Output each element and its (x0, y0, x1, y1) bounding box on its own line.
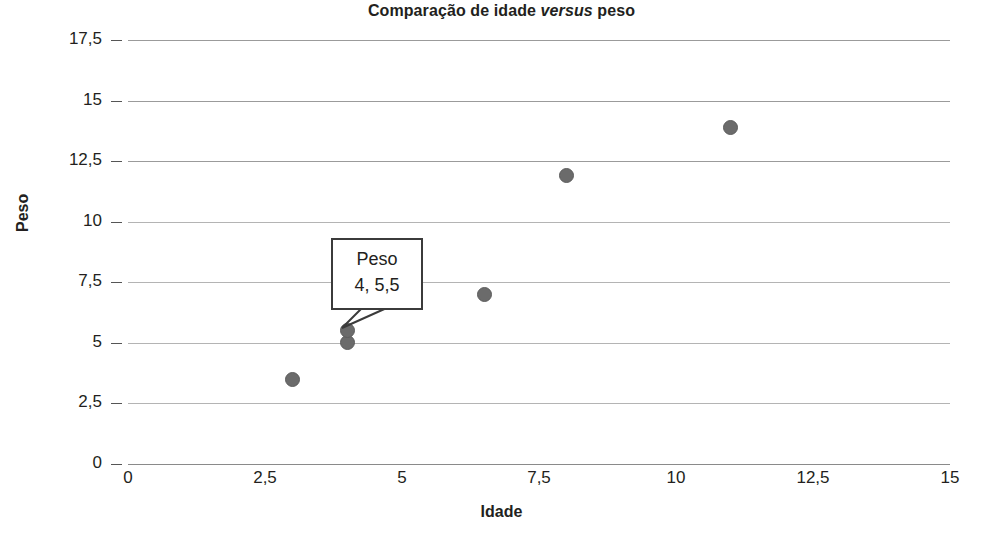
data-point-callout[interactable]: Peso 4, 5,5 (331, 238, 423, 310)
y-tick-label: 7,5 (32, 271, 102, 291)
gridline (128, 343, 950, 344)
x-tick-label: 10 (636, 468, 716, 488)
chart-title-before: Comparação de idade (368, 2, 541, 19)
gridline (128, 222, 950, 223)
plot-area (128, 40, 950, 464)
x-tick-label: 0 (88, 468, 168, 488)
data-point[interactable] (477, 287, 492, 302)
y-tick-label: 5 (32, 332, 102, 352)
y-tick-label: 17,5 (32, 29, 102, 49)
chart-title: Comparação de idade versus peso (0, 2, 1003, 20)
y-tick-label: 12,5 (32, 150, 102, 170)
gridline (128, 40, 950, 41)
y-axis-title: Peso (14, 194, 32, 232)
x-tick-label: 5 (362, 468, 442, 488)
y-tick-mark (111, 343, 122, 344)
chart-title-after: peso (593, 2, 635, 19)
x-tick-label: 12,5 (773, 468, 853, 488)
x-tick-label: 2,5 (225, 468, 305, 488)
callout-value: 4, 5,5 (333, 272, 421, 298)
y-tick-label: 15 (32, 90, 102, 110)
y-tick-label: 10 (32, 211, 102, 231)
x-axis-line (128, 464, 950, 465)
y-tick-mark (111, 464, 122, 465)
y-tick-mark (111, 222, 122, 223)
chart-title-italic: versus (541, 2, 593, 19)
y-tick-mark (111, 40, 122, 41)
data-point[interactable] (285, 372, 300, 387)
gridline (128, 403, 950, 404)
y-tick-mark (111, 101, 122, 102)
gridline (128, 101, 950, 102)
data-point[interactable] (559, 168, 574, 183)
x-axis-title: Idade (0, 503, 1003, 521)
y-tick-mark (111, 161, 122, 162)
x-tick-label: 7,5 (499, 468, 579, 488)
y-tick-mark (111, 403, 122, 404)
data-point[interactable] (723, 120, 738, 135)
x-tick-label: 15 (910, 468, 990, 488)
scatter-chart: Comparação de idade versus peso Peso Ida… (0, 0, 1003, 535)
y-tick-label: 2,5 (32, 392, 102, 412)
y-tick-mark (111, 282, 122, 283)
gridline (128, 161, 950, 162)
gridline (128, 282, 950, 283)
callout-title: Peso (333, 246, 421, 272)
